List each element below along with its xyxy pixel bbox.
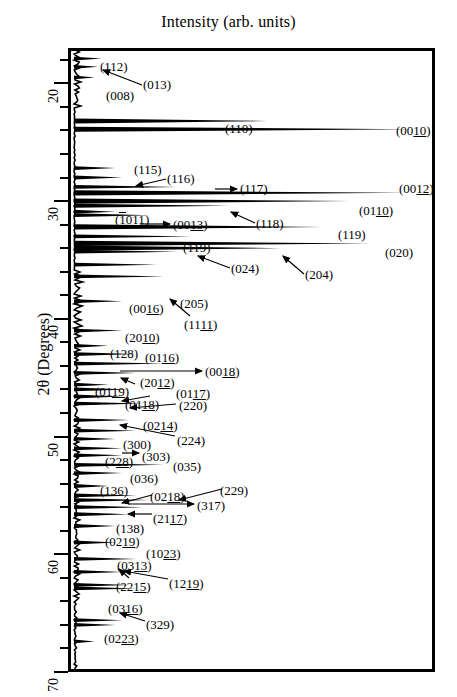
trace-peak: [74, 505, 143, 509]
axis-tick-label: 70: [46, 672, 62, 697]
peak-label: (2117): [153, 512, 187, 525]
peak-label: (220): [179, 399, 207, 412]
peak-label: (020): [385, 246, 413, 259]
peak-label: (2215): [116, 580, 151, 593]
trace-peak: [74, 429, 136, 433]
axis-tick-label: 20: [46, 83, 62, 109]
trace-peak: [74, 524, 115, 528]
trace-peak: [74, 344, 109, 348]
peak-label: (115): [134, 163, 162, 176]
trace-peak: [74, 166, 115, 170]
axis-tick-minor: [60, 177, 68, 179]
trace-peak: [74, 446, 122, 450]
y-axis-title: 2θ (Degrees): [35, 264, 53, 444]
peak-label: (224): [177, 434, 205, 447]
peak-label: (329): [146, 618, 174, 631]
trace-peak: [74, 263, 157, 267]
axis-tick-minor: [60, 247, 68, 249]
xrd-figure: Intensity (arb. units) 2θ (Degrees) 2030…: [0, 0, 457, 697]
trace-peak: [74, 234, 191, 238]
axis-tick-minor: [60, 388, 68, 390]
peak-label: (0313): [117, 559, 152, 572]
peak-label: (303): [142, 450, 170, 463]
axis-tick-minor: [60, 59, 68, 61]
trace-peak: [74, 371, 136, 375]
peak-label: (0016): [129, 302, 164, 315]
trace-peak: [74, 512, 129, 516]
peak-label: (204): [305, 268, 333, 281]
trace-peak: [74, 329, 122, 333]
peak-label: (1111): [184, 318, 217, 331]
axis-tick-minor: [60, 412, 68, 414]
peak-label: (136): [100, 484, 128, 497]
peak-label: (0116): [145, 351, 179, 364]
peak-label: (024): [231, 262, 259, 275]
peak-label: (110): [225, 122, 253, 135]
peak-label: (229): [220, 484, 248, 497]
trace-peak: [74, 65, 98, 69]
peak-label: (0214): [143, 419, 178, 432]
peak-label: (008): [106, 89, 134, 102]
page-title: Intensity (arb. units): [0, 13, 457, 31]
trace-peak: [74, 275, 164, 279]
peak-label: (205): [180, 297, 208, 310]
peak-label: (0118): [125, 398, 159, 411]
trace-peak: [74, 246, 281, 251]
axis-tick-label: 50: [46, 437, 62, 463]
peak-label: (0013): [173, 218, 208, 231]
axis-tick-minor: [60, 530, 68, 532]
trace-peak: [74, 204, 229, 208]
axis-tick-minor: [60, 365, 68, 367]
peak-label: (112): [100, 60, 128, 73]
peak-label: (117): [240, 182, 268, 195]
peak-label: (128): [110, 347, 138, 360]
trace-peak: [74, 498, 150, 502]
peak-label: (2012): [140, 376, 175, 389]
axis-tick-minor: [60, 153, 68, 155]
peak-label: (0218): [150, 490, 185, 503]
trace-peak: [74, 471, 122, 475]
peak-label: (0012): [399, 182, 434, 195]
trace-baseline: [74, 48, 83, 672]
axis-tick-minor: [60, 483, 68, 485]
peak-label: (0010): [396, 124, 431, 137]
trace-peak: [74, 618, 122, 622]
axis-tick-minor: [60, 271, 68, 273]
axis-tick-minor: [60, 129, 68, 131]
axis-tick-minor: [60, 600, 68, 602]
peak-label: (0110): [359, 204, 393, 217]
axis-tick-minor: [60, 294, 68, 296]
trace-peak: [74, 437, 115, 441]
peak-label: (2010): [125, 331, 160, 344]
trace-peak: [74, 418, 129, 422]
peak-label: (0018): [205, 365, 240, 378]
peak-label: (036): [130, 472, 158, 485]
trace-peak: [74, 299, 122, 303]
axis-tick-minor: [60, 647, 68, 649]
peak-label: (119): [183, 241, 211, 254]
trace-peak: [74, 176, 122, 180]
peak-label: (116): [167, 172, 195, 185]
trace-peak: [74, 623, 115, 627]
trace-peak: [74, 210, 115, 214]
axis-tick-label: 40: [46, 319, 62, 345]
axis-tick-label: 60: [46, 554, 62, 580]
peak-label: (317): [197, 499, 225, 512]
trace-peak: [74, 185, 178, 189]
peak-label: (119): [338, 228, 366, 241]
peak-label: (228): [105, 455, 133, 468]
trace-peak: [74, 241, 371, 246]
peak-label: (0316): [108, 602, 143, 615]
axis-tick-minor: [60, 624, 68, 626]
trace-peak: [74, 76, 95, 80]
axis-tick-label: 30: [46, 201, 62, 227]
trace-peak: [74, 198, 350, 203]
peak-label: (0223): [104, 632, 139, 645]
peak-label: (118): [256, 217, 284, 230]
peak-label: (1219): [169, 577, 204, 590]
axis-tick-minor: [60, 506, 68, 508]
peak-label: (035): [173, 460, 201, 473]
trace-peak: [74, 570, 122, 574]
peak-label: (1011): [115, 212, 149, 226]
trace-peak: [74, 57, 102, 61]
